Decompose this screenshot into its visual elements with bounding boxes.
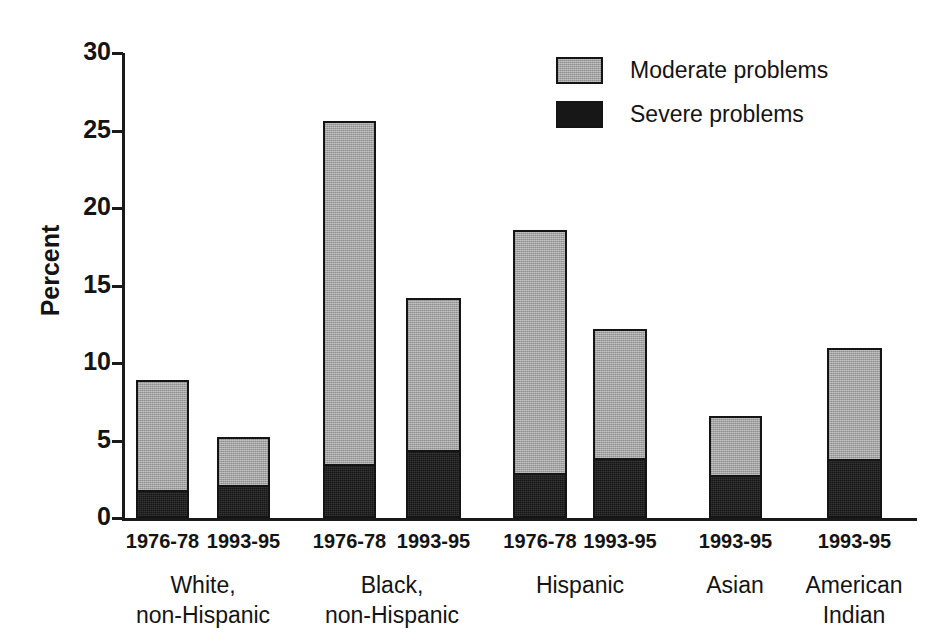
bar-segment-severe: [709, 475, 762, 518]
bar-segment-moderate: [406, 298, 461, 452]
x-axis-period-label: 1993-95: [676, 530, 796, 553]
bar-segment-moderate: [593, 329, 647, 460]
x-axis-period-label: 1993-95: [795, 530, 915, 553]
bar-segment-moderate: [827, 348, 882, 462]
bar-segment-severe: [406, 450, 461, 518]
stacked-bar: [593, 329, 647, 518]
stacked-bar: [323, 121, 376, 518]
bar-segment-moderate: [513, 230, 567, 475]
bar-segment-severe: [593, 458, 647, 518]
x-axis-group-label: White,non-Hispanic: [93, 570, 313, 630]
x-axis-period-label: 1993-95: [560, 530, 680, 553]
stacked-bar: [136, 380, 189, 518]
x-axis-period-label: 1993-95: [374, 530, 494, 553]
x-axis-group-label-line1: American: [744, 570, 943, 600]
bar-segment-severe: [323, 464, 376, 518]
legend-swatch-severe-icon: [556, 101, 603, 128]
chart-container: Percent 302520151050 1976-781993-951976-…: [0, 0, 943, 640]
x-axis-group-label: Black,non-Hispanic: [282, 570, 502, 630]
bar-segment-moderate: [217, 437, 270, 487]
bar-segment-moderate: [709, 416, 762, 477]
x-axis-group-label-line1: White,: [93, 570, 313, 600]
chart-legend: Moderate problems Severe problems: [556, 48, 828, 136]
stacked-bar: [406, 298, 461, 518]
x-axis-group-label-line2: Indian: [744, 600, 943, 630]
bar-segment-severe: [217, 485, 270, 518]
stacked-bar: [709, 416, 762, 518]
x-axis-group-label: AmericanIndian: [744, 570, 943, 630]
bar-segment-moderate: [136, 380, 189, 492]
bar-segment-severe: [136, 490, 189, 518]
bar-segment-severe: [827, 459, 882, 518]
legend-label-moderate: Moderate problems: [630, 57, 828, 84]
legend-item-moderate: Moderate problems: [556, 48, 828, 92]
stacked-bar: [513, 230, 567, 518]
legend-label-severe: Severe problems: [630, 101, 804, 128]
stacked-bar: [827, 348, 882, 519]
legend-item-severe: Severe problems: [556, 92, 828, 136]
bar-segment-moderate: [323, 121, 376, 466]
bar-segment-severe: [513, 473, 567, 518]
legend-swatch-moderate-icon: [556, 57, 603, 84]
stacked-bar: [217, 437, 270, 518]
x-axis-period-label: 1993-95: [184, 530, 304, 553]
x-axis-group-label-line2: non-Hispanic: [93, 600, 313, 630]
x-axis-group-label-line1: Black,: [282, 570, 502, 600]
x-axis-group-label-line2: non-Hispanic: [282, 600, 502, 630]
